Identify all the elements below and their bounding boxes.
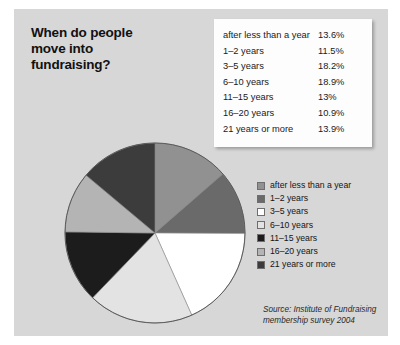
legend-swatch-icon xyxy=(257,221,265,229)
table-row: 11–15 years13% xyxy=(223,90,364,106)
legend-item-label: 3–5 years xyxy=(270,205,308,218)
table-cell-value: 13% xyxy=(318,90,364,106)
title-line-1: When do people xyxy=(31,25,211,41)
source-line-2: membership survey 2004 xyxy=(263,316,400,327)
table-cell-value: 11.5% xyxy=(318,44,364,60)
legend-item-label: 11–15 years xyxy=(270,232,317,245)
legend-item-label: 16–20 years xyxy=(270,245,318,258)
source-attribution: Source: Institute of Fundraising members… xyxy=(263,305,400,326)
legend-swatch-icon xyxy=(257,261,265,269)
table-row: 1–2 years11.5% xyxy=(223,44,364,60)
table-row: 21 years or more13.9% xyxy=(223,122,364,138)
chart-legend: after less than a year1–2 years3–5 years… xyxy=(257,179,397,271)
table-cell-label: after less than a year xyxy=(223,28,310,44)
legend-item-label: 6–10 years xyxy=(270,219,313,232)
table-cell-label: 3–5 years xyxy=(223,59,264,75)
legend-swatch-icon xyxy=(257,248,265,256)
table-cell-label: 11–15 years xyxy=(223,90,273,106)
table-cell-label: 21 years or more xyxy=(223,122,293,138)
table-cell-label: 6–10 years xyxy=(223,75,269,91)
legend-item: 21 years or more xyxy=(257,258,397,271)
pie-chart xyxy=(62,140,248,326)
table-cell-value: 13.6% xyxy=(318,28,364,44)
legend-item-label: 21 years or more xyxy=(270,258,336,271)
legend-item-label: after less than a year xyxy=(270,179,351,192)
figure-panel: When do people move into fundraising? af… xyxy=(14,9,388,336)
legend-swatch-icon xyxy=(257,234,265,242)
table-row: after less than a year13.6% xyxy=(223,28,364,44)
legend-item: 3–5 years xyxy=(257,205,397,218)
page-title: When do people move into fundraising? xyxy=(31,25,211,73)
data-table: after less than a year13.6%1–2 years11.5… xyxy=(214,19,372,147)
table-cell-value: 10.9% xyxy=(318,106,364,122)
table-cell-label: 1–2 years xyxy=(223,44,264,60)
table-cell-value: 18.9% xyxy=(318,75,364,91)
legend-item-label: 1–2 years xyxy=(270,192,308,205)
legend-swatch-icon xyxy=(257,182,265,190)
table-row: 16–20 years10.9% xyxy=(223,106,364,122)
source-line-1: Source: Institute of Fundraising xyxy=(263,305,400,316)
title-line-3: fundraising? xyxy=(31,57,211,73)
chart-figure: When do people move into fundraising? af… xyxy=(0,0,400,345)
legend-swatch-icon xyxy=(257,195,265,203)
table-cell-value: 18.2% xyxy=(318,59,364,75)
legend-item: 1–2 years xyxy=(257,192,397,205)
pie-chart-svg xyxy=(62,140,248,326)
title-line-2: move into xyxy=(31,41,211,57)
table-cell-label: 16–20 years xyxy=(223,106,274,122)
legend-item: 6–10 years xyxy=(257,219,397,232)
legend-item: 16–20 years xyxy=(257,245,397,258)
table-row: 3–5 years18.2% xyxy=(223,59,364,75)
legend-item: after less than a year xyxy=(257,179,397,192)
table-cell-value: 13.9% xyxy=(318,122,364,138)
table-row: 6–10 years18.9% xyxy=(223,75,364,91)
legend-item: 11–15 years xyxy=(257,232,397,245)
legend-swatch-icon xyxy=(257,208,265,216)
